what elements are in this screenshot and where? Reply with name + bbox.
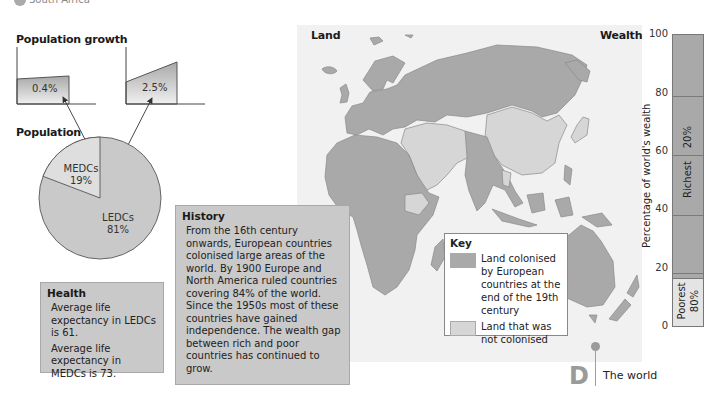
key-label-colonised: Land colonised by European countries at … [481,252,562,317]
pie-label-ledcs-value: 81% [93,224,143,236]
population-pie-chart [38,136,162,260]
wealth-richest-label: Richest 20% [682,112,696,212]
wealth-tick-100: 100 [646,28,668,39]
poorest-pct: 80% [688,271,701,331]
health-title: Health [47,287,157,299]
richest-name: Richest [682,161,693,198]
pie-label-ledcs: LEDCs 81% [93,212,143,236]
health-line-medcs: Average life expectancy in MEDCs is 73. [47,343,157,381]
key-item-not-colonised: Land that was not colonised [450,320,562,346]
health-box: Health Average life expectancy in LEDCs … [40,282,164,373]
richest-pct: 20% [682,126,693,148]
key-swatch-not-colonised [450,321,476,336]
map-land-title: Land [311,29,340,42]
history-box: History From the 16th century onwards, E… [175,205,350,385]
pie-label-medcs-name: MEDCs [56,163,106,175]
wealth-bar: Richest 20% Poorest 80% [672,34,704,327]
figure-marker-stem [595,346,596,386]
health-line-ledcs: Average life expectancy in LEDCs is 61. [47,302,157,340]
map-uk [340,84,349,103]
key-label-not-colonised: Land that was not colonised [481,320,562,346]
wealth-tick-20: 20 [646,262,668,273]
figure-caption: The world [603,369,657,382]
map-key: Key Land colonised by European countries… [444,233,568,336]
pie-label-medcs-value: 19% [56,175,106,187]
history-text: From the 16th century onwards, European … [182,225,343,375]
wealth-tick-80: 80 [646,87,668,98]
history-title: History [182,210,343,222]
map-iceland [322,67,337,74]
wealth-tick-0: 0 [646,320,668,331]
map-japan [571,117,589,143]
figure-letter: D [569,364,589,388]
poorest-name: Poorest [675,271,688,331]
wealth-bar-divider [673,96,703,97]
wealth-bar-divider [673,215,703,216]
key-item-colonised: Land colonised by European countries at … [450,252,562,317]
wealth-poorest-label: Poorest 80% [675,271,703,331]
map-madagascar [431,239,445,271]
key-swatch-colonised [450,253,476,268]
wealth-title: Wealth [600,29,642,42]
key-title: Key [450,237,562,249]
pie-label-medcs: MEDCs 19% [56,163,106,187]
wealth-axis-label: Percentage of world's wealth [641,128,655,248]
pie-label-ledcs-name: LEDCs [93,212,143,224]
